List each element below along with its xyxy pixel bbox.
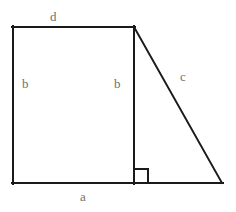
figure-drawing [0, 0, 236, 212]
right-angle-square-icon [135, 169, 148, 183]
label-b-middle: b [114, 77, 121, 90]
label-c: c [180, 70, 186, 83]
geometry-figure: d b b c a [0, 0, 236, 212]
label-a: a [80, 190, 86, 203]
label-d: d [50, 10, 57, 23]
label-b-left: b [22, 77, 29, 90]
hypotenuse-edge-c [134, 27, 222, 183]
